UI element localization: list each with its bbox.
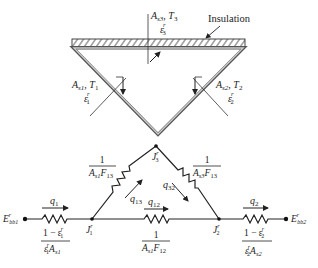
node-j3 xyxy=(154,144,158,148)
svg-text:εr1As1: εr1As1 xyxy=(44,242,61,255)
radiation-enclosure-diagram: Insulation As3, T3 εr3 As1, T1 εr1 As2, … xyxy=(0,0,318,268)
enclosure-figure: Insulation As3, T3 εr3 As1, T1 εr1 As2, … xyxy=(71,10,251,134)
svg-text:εr2As2: εr2As2 xyxy=(245,244,262,257)
surface3-flux-arrow xyxy=(150,52,160,62)
surface2-label: As2, T2 xyxy=(215,79,243,92)
q12-label: q12 xyxy=(148,196,161,209)
q1-label: q1 xyxy=(50,195,59,208)
node-ebb2 xyxy=(284,217,288,221)
wire-j2-ebb2 xyxy=(219,215,286,223)
q13-label: q13 xyxy=(130,193,143,206)
svg-text:1 − εr2: 1 − εr2 xyxy=(244,226,265,239)
ebb1-label: Erbb1 xyxy=(2,212,18,225)
svg-text:As1F13: As1F13 xyxy=(88,168,113,179)
wire-j1-j2 xyxy=(92,215,219,223)
insulation-label: Insulation xyxy=(208,13,251,24)
svg-text:1 − εr1: 1 − εr1 xyxy=(43,226,64,239)
surface3-emissivity: εr3 xyxy=(160,21,166,36)
wire-ebb1-j1 xyxy=(25,215,92,223)
svg-text:1: 1 xyxy=(154,230,159,240)
svg-text:As1F12: As1F12 xyxy=(141,243,166,254)
resistance-r13: 1 As1F13 xyxy=(88,155,116,179)
insulation-layer xyxy=(72,39,245,47)
surface1-emissivity: εr1 xyxy=(84,90,90,105)
j3-label: Jr3 xyxy=(152,150,159,163)
svg-text:1: 1 xyxy=(100,155,105,165)
resistance-r1: 1 − εr1 εr1As1 xyxy=(41,226,70,255)
surface1-label: As1, T1 xyxy=(71,79,99,92)
resistance-r12: 1 As1F12 xyxy=(141,230,170,254)
insulation-pointer xyxy=(206,26,220,38)
q2-label: q2 xyxy=(250,195,259,208)
node-j1 xyxy=(90,217,94,221)
ebb2-label: Erbb2 xyxy=(290,212,306,225)
resistance-r2: 1 − εr2 εr2As2 xyxy=(242,226,272,257)
node-j2 xyxy=(217,217,221,221)
j2-label: Jr2 xyxy=(213,223,220,236)
j1-label: Jr1 xyxy=(86,223,93,236)
resistance-r32: 1 As3F13 xyxy=(192,155,221,179)
q32-label: q32 xyxy=(163,179,176,192)
svg-text:1: 1 xyxy=(205,155,210,165)
svg-text:As3F13: As3F13 xyxy=(192,168,217,179)
enclosure-walls xyxy=(74,48,243,134)
surface2-emissivity: εr2 xyxy=(228,90,234,105)
node-ebb1 xyxy=(23,217,27,221)
